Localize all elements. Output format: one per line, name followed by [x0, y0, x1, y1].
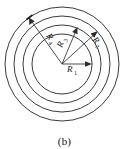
radius-line-R2	[62, 34, 95, 64]
radius-label-R1: R 1	[66, 64, 77, 76]
figure-container: R 1 R 2 R 3 R 4 (b)	[0, 0, 129, 149]
concentric-circles-diagram: R 1 R 2 R 3 R 4	[0, 0, 129, 149]
radius-label-R3-subscript: 3	[62, 38, 69, 43]
radius-label-R2: R 2	[89, 34, 105, 50]
radius-label-R1-subscript: 1	[74, 70, 77, 76]
arrow-head-R1	[85, 61, 92, 66]
radius-label-R3: R 3	[54, 36, 69, 51]
radius-arrow-R2	[62, 31, 98, 64]
figure-caption: (b)	[0, 135, 129, 147]
radius-label-R1-base: R	[66, 64, 73, 74]
